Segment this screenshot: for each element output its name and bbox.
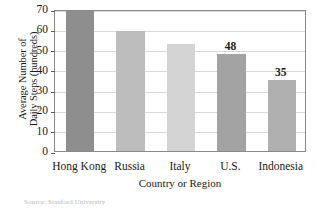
y-tick-mark (51, 153, 55, 154)
bar[interactable] (268, 80, 296, 151)
y-tick-mark (51, 31, 55, 32)
bar-value-label: 48 (200, 41, 260, 53)
y-tick-label: 50 (2, 45, 48, 57)
x-axis-title: Country or Region (54, 178, 306, 189)
bar[interactable] (217, 54, 245, 151)
y-tick-mark (51, 11, 55, 12)
source-note: Source: Stanford University (24, 199, 105, 206)
bar-value-label: 35 (251, 67, 311, 79)
bar[interactable] (116, 31, 144, 151)
bar-chart-figure: Average Number of Daily Steps (hundreds)… (0, 0, 317, 210)
bar[interactable] (167, 44, 195, 152)
y-tick-mark (51, 71, 55, 72)
y-tick-mark (51, 51, 55, 52)
y-tick-label: 0 (2, 146, 48, 158)
y-tick-mark (51, 132, 55, 133)
plot-area (54, 10, 306, 152)
y-tick-label: 70 (2, 4, 48, 16)
y-tick-label: 60 (2, 25, 48, 37)
y-tick-mark (51, 112, 55, 113)
y-tick-label: 20 (2, 106, 48, 118)
y-tick-mark (51, 92, 55, 93)
x-tick-label: Indonesia (236, 161, 317, 173)
y-tick-label: 10 (2, 126, 48, 138)
y-tick-label: 30 (2, 85, 48, 97)
y-tick-label: 40 (2, 65, 48, 77)
bar[interactable] (66, 11, 94, 151)
